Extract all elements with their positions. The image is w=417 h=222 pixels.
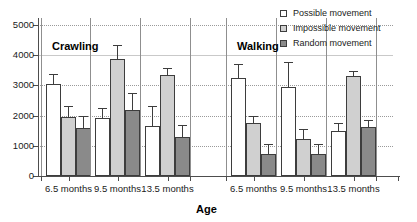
x-tick-mark xyxy=(254,176,255,181)
bar-random xyxy=(76,128,91,176)
bar-random xyxy=(361,127,376,176)
y-tick-label: 5000 xyxy=(0,20,34,30)
bar-chart: 500040003000200010000 6.5 months9.5 mont… xyxy=(0,0,417,222)
x-axis-line xyxy=(38,176,400,177)
x-tick-mark xyxy=(118,176,119,181)
group-separator xyxy=(41,18,42,176)
error-bar-cap xyxy=(299,129,308,130)
legend-item-random: Random movement xyxy=(280,36,381,51)
legend-label: Impossible movement xyxy=(293,24,381,33)
x-tick-mark xyxy=(190,176,191,181)
error-bar xyxy=(68,106,69,117)
y-tick-label: 2000 xyxy=(0,111,34,121)
legend-item-impossible: Impossible movement xyxy=(280,21,381,36)
bar-impossible xyxy=(296,139,311,176)
error-bar-cap xyxy=(284,62,293,63)
error-bar-cap xyxy=(234,64,243,65)
error-bar-cap xyxy=(314,144,323,145)
group-separator xyxy=(140,18,141,176)
error-bar xyxy=(132,93,133,111)
bar-random xyxy=(125,110,140,176)
x-tick-mark xyxy=(304,176,305,181)
x-tick-mark xyxy=(226,176,227,181)
x-tick-label: 13.5 months xyxy=(319,183,389,194)
error-bar xyxy=(152,106,153,126)
x-tick-label: 13.5 months xyxy=(133,183,203,194)
error-bar-cap xyxy=(98,108,107,109)
bar-impossible xyxy=(246,123,261,176)
legend-swatch-possible-icon xyxy=(280,10,287,17)
legend-item-possible: Possible movement xyxy=(280,6,381,21)
error-bar xyxy=(338,123,339,131)
error-bar xyxy=(53,74,54,84)
error-bar xyxy=(83,116,84,128)
error-bar xyxy=(318,144,319,154)
legend: Possible movementImpossible movementRand… xyxy=(280,6,381,51)
legend-label: Possible movement xyxy=(293,9,372,18)
error-bar-cap xyxy=(163,68,172,69)
error-bar-cap xyxy=(113,45,122,46)
bar-random xyxy=(261,154,276,176)
error-bar-cap xyxy=(349,71,358,72)
error-bar-cap xyxy=(334,123,343,124)
error-bar xyxy=(268,144,269,154)
bar-possible xyxy=(331,131,346,176)
error-bar xyxy=(182,125,183,137)
panel-title-crawling: Crawling xyxy=(52,40,98,52)
bar-impossible xyxy=(346,76,361,176)
legend-swatch-impossible-icon xyxy=(280,25,287,32)
error-bar xyxy=(303,129,304,139)
x-tick-mark xyxy=(398,176,399,181)
error-bar xyxy=(167,68,168,76)
y-tick-label: 3000 xyxy=(0,80,34,90)
y-tick-label: 4000 xyxy=(0,50,34,60)
error-bar-cap xyxy=(249,116,258,117)
x-tick-mark xyxy=(41,176,42,181)
error-bar-cap xyxy=(49,74,58,75)
bar-impossible xyxy=(61,117,76,176)
error-bar-cap xyxy=(79,116,88,117)
error-bar xyxy=(117,45,118,59)
legend-label: Random movement xyxy=(293,39,372,48)
error-bar-cap xyxy=(264,144,273,145)
error-bar-cap xyxy=(364,120,373,121)
bar-possible xyxy=(46,84,61,176)
panel-title-walking: Walking xyxy=(237,40,279,52)
error-bar-cap xyxy=(64,106,73,107)
bar-impossible xyxy=(110,59,125,176)
error-bar-cap xyxy=(148,106,157,107)
bar-random xyxy=(311,154,326,176)
bar-possible xyxy=(145,126,160,176)
bar-possible xyxy=(281,87,296,176)
error-bar xyxy=(288,62,289,87)
x-tick-mark xyxy=(354,176,355,181)
error-bar-cap xyxy=(128,93,137,94)
group-separator xyxy=(226,18,227,176)
x-axis-title: Age xyxy=(196,203,217,215)
bar-random xyxy=(175,137,190,176)
x-tick-mark xyxy=(168,176,169,181)
x-tick-mark xyxy=(376,176,377,181)
bar-possible xyxy=(231,78,246,176)
legend-swatch-random-icon xyxy=(280,40,287,47)
x-tick-mark xyxy=(69,176,70,181)
bar-possible xyxy=(95,118,110,176)
error-bar xyxy=(102,108,103,118)
error-bar xyxy=(253,116,254,123)
error-bar-cap xyxy=(178,125,187,126)
y-tick-label: 1000 xyxy=(0,141,34,151)
error-bar xyxy=(238,64,239,78)
group-separator xyxy=(190,18,191,176)
y-tick-label: 0 xyxy=(0,171,34,181)
bar-impossible xyxy=(160,75,175,176)
